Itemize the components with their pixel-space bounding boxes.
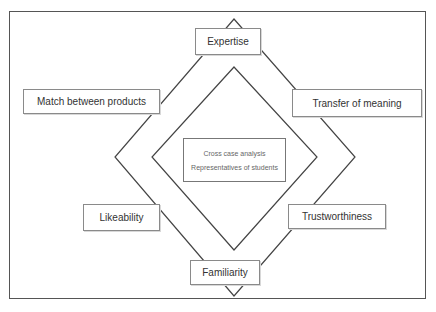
node-familiarity: Familiarity xyxy=(190,260,260,285)
center-line-2: Representatives of students xyxy=(191,164,278,171)
center-box: Cross case analysis Representatives of s… xyxy=(183,138,286,182)
node-transfer-of-meaning: Transfer of meaning xyxy=(292,89,422,117)
node-likeability: Likeability xyxy=(83,204,160,231)
node-transfer-of-meaning-label: Transfer of meaning xyxy=(312,98,401,109)
node-expertise: Expertise xyxy=(195,28,261,55)
node-familiarity-label: Familiarity xyxy=(202,267,248,278)
node-match-between-products: Match between products xyxy=(23,89,160,114)
node-trustworthiness-label: Trustworthiness xyxy=(302,211,372,222)
center-line-1: Cross case analysis xyxy=(203,150,265,157)
node-trustworthiness: Trustworthiness xyxy=(288,204,386,229)
node-match-between-products-label: Match between products xyxy=(37,96,146,107)
node-likeability-label: Likeability xyxy=(100,212,144,223)
node-expertise-label: Expertise xyxy=(207,36,249,47)
